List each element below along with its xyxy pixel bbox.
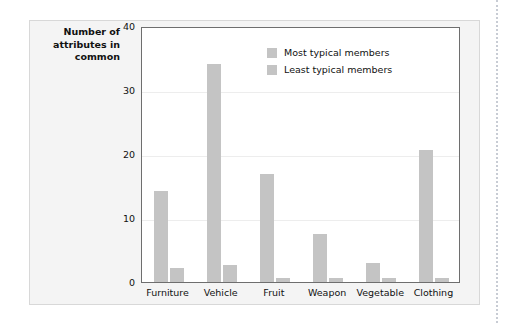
gridline: [142, 220, 459, 221]
bar: [154, 191, 168, 282]
bar: [260, 174, 274, 282]
y-axis-tick-label: 0: [109, 278, 135, 288]
x-axis-tick-label: Furniture: [141, 287, 194, 298]
bar: [223, 265, 237, 282]
legend-item: Most typical members: [267, 45, 417, 60]
bar: [170, 268, 184, 282]
gridline: [142, 156, 459, 157]
chart-figure-card: Number of attributes in common 010203040…: [29, 20, 480, 305]
y-axis-tick-label: 40: [109, 22, 135, 32]
page-margin-dotted-rule: [496, 0, 498, 323]
x-axis-tick-label: Clothing: [407, 287, 460, 298]
legend-swatch-least-typical: [267, 65, 277, 75]
gridline: [142, 92, 459, 93]
chart-legend: Most typical membersLeast typical member…: [267, 45, 417, 79]
bar: [435, 278, 449, 282]
legend-swatch-most-typical: [267, 48, 277, 58]
bar: [313, 234, 327, 282]
legend-item: Least typical members: [267, 62, 417, 77]
x-axis-tick-label: Vegetable: [354, 287, 407, 298]
bar: [207, 64, 221, 282]
x-axis-tick-label: Weapon: [301, 287, 354, 298]
y-axis-title: Number of attributes in common: [36, 26, 120, 64]
bar: [382, 278, 396, 282]
bar: [329, 278, 343, 282]
y-axis-tick-label: 10: [109, 214, 135, 224]
y-axis-tick-label: 30: [109, 86, 135, 96]
y-axis-tick-label: 20: [109, 150, 135, 160]
bar: [366, 263, 380, 282]
bar: [419, 150, 433, 282]
x-axis-tick-label: Fruit: [247, 287, 300, 298]
legend-item-label: Least typical members: [284, 64, 392, 75]
bar: [276, 278, 290, 282]
x-axis-tick-label: Vehicle: [194, 287, 247, 298]
legend-item-label: Most typical members: [284, 47, 390, 58]
